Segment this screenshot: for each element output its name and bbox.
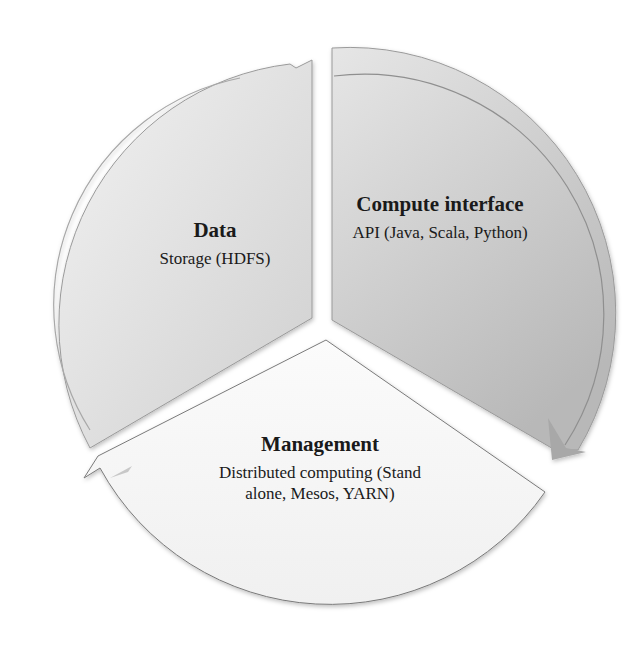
segment-title: Compute interface: [350, 192, 530, 216]
segment-management-label: Management Distributed computing (Stand …: [210, 432, 430, 504]
segment-compute-label: Compute interface API (Java, Scala, Pyth…: [350, 192, 530, 243]
segment-title: Management: [210, 432, 430, 456]
segment-title: Data: [130, 218, 300, 242]
segment-description: API (Java, Scala, Python): [350, 222, 530, 243]
segment-data-label: Data Storage (HDFS): [130, 218, 300, 269]
cycle-diagram: [0, 0, 631, 650]
segment-description: Storage (HDFS): [130, 248, 300, 269]
segment-description: Distributed computing (Stand alone, Meso…: [210, 462, 430, 504]
